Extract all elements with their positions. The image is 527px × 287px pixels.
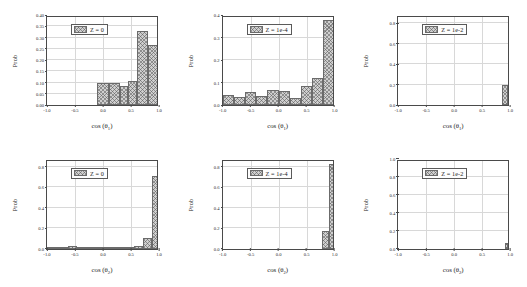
histogram-bar bbox=[329, 164, 333, 248]
legend-swatch-hatched bbox=[250, 26, 263, 33]
y-axis-tick-label: 1.0 bbox=[389, 156, 395, 161]
x-axis-label-main: cos (θ bbox=[267, 122, 283, 129]
y-axis-tick-label: 0.20 bbox=[36, 58, 44, 63]
histogram-bar bbox=[47, 247, 68, 249]
y-axis-tick-label: 0.6 bbox=[214, 185, 220, 190]
x-axis-tick-label: -0.5 bbox=[423, 252, 430, 257]
histogram-bar bbox=[267, 90, 278, 105]
x-axis-tick-label: -1.0 bbox=[219, 108, 226, 113]
plot-area: 0.00.20.40.60.8-1.0-0.50.00.51.0Z = 1e-2 bbox=[397, 16, 509, 106]
legend-box: Z = 0 bbox=[71, 168, 108, 179]
y-axis-tick-label: 0.0 bbox=[214, 103, 220, 108]
y-axis-tick-label: 0.4 bbox=[389, 62, 395, 67]
x-axis-tick-label: 1.0 bbox=[332, 252, 338, 257]
y-axis-label: Prob bbox=[11, 198, 18, 211]
legend-swatch-hatched bbox=[250, 170, 263, 177]
plot-area: 0.00.20.40.60.8-1.0-0.50.00.51.0Z = 0 bbox=[46, 160, 158, 250]
y-axis-tick-label: 0.8 bbox=[389, 174, 395, 179]
y-axis-label: Prob bbox=[362, 55, 369, 68]
chart-panel-2: 0.00.10.20.30.4-1.0-0.50.00.51.0Z = 1e-4… bbox=[176, 0, 352, 144]
legend-box: Z = 1e-4 bbox=[247, 168, 292, 179]
legend-swatch-hatched bbox=[74, 26, 87, 33]
chart-panel-4: 0.00.20.40.60.8-1.0-0.50.00.51.0Z = 0Pro… bbox=[0, 144, 176, 287]
x-axis-tick-label: -1.0 bbox=[43, 108, 50, 113]
histogram-bar bbox=[279, 91, 290, 105]
x-axis-label-close: ) bbox=[286, 122, 288, 129]
x-axis-tick-label: 0.0 bbox=[100, 108, 106, 113]
histogram-bar bbox=[137, 31, 148, 105]
x-axis-tick-label: 0.0 bbox=[451, 252, 457, 257]
histogram-bar bbox=[312, 78, 323, 105]
x-axis-tick-label: 0.5 bbox=[304, 108, 310, 113]
x-axis-label: cos (θ1) bbox=[92, 122, 113, 131]
legend-box: Z = 1e-2 bbox=[422, 24, 467, 35]
figure-panel-grid: 0.000.050.100.150.200.250.300.350.40-1.0… bbox=[0, 0, 527, 287]
y-axis-tick-label: 0.05 bbox=[36, 91, 44, 96]
histogram-bar bbox=[323, 20, 332, 105]
x-axis-tick-label: 0.5 bbox=[304, 252, 310, 257]
histogram-bar bbox=[148, 45, 157, 105]
chart-panel-6: 0.00.20.40.60.81.0-1.0-0.50.00.51.0Z = 1… bbox=[351, 144, 527, 287]
x-axis-label-main: cos (θ bbox=[443, 266, 459, 273]
x-axis-tick-label: 1.0 bbox=[332, 108, 338, 113]
y-axis-label: Prob bbox=[362, 198, 369, 211]
chart-panel-5: 0.00.20.40.60.8-1.0-0.50.00.51.0Z = 1e-4… bbox=[176, 144, 352, 287]
histogram-bar bbox=[77, 247, 97, 249]
y-axis-tick-label: 0.4 bbox=[38, 205, 44, 210]
y-axis-tick-label: 0.2 bbox=[389, 228, 395, 233]
histogram-bar bbox=[120, 86, 128, 105]
x-axis-tick-label: 1.0 bbox=[156, 252, 162, 257]
y-axis-label: Prob bbox=[11, 55, 18, 68]
histogram-bar bbox=[301, 86, 312, 105]
y-axis-tick-label: 0.40 bbox=[36, 13, 44, 18]
legend-box: Z = 1e-2 bbox=[422, 168, 467, 179]
legend-label: Z = 0 bbox=[90, 26, 104, 33]
plot-area: 0.00.20.40.60.81.0-1.0-0.50.00.51.0Z = 1… bbox=[397, 160, 509, 250]
x-axis-tick-label: -0.5 bbox=[423, 108, 430, 113]
x-axis-label-main: cos (θ bbox=[443, 122, 459, 129]
x-axis-tick-label: 1.0 bbox=[156, 108, 162, 113]
y-axis-tick-label: 0.0 bbox=[389, 246, 395, 251]
x-axis-label: cos (θ2) bbox=[443, 266, 464, 275]
chart-panel-1: 0.000.050.100.150.200.250.300.350.40-1.0… bbox=[0, 0, 176, 144]
histogram-bar bbox=[234, 97, 245, 105]
y-axis-tick-label: 0.4 bbox=[214, 205, 220, 210]
y-axis-tick-label: 0.2 bbox=[38, 226, 44, 231]
histogram-bar bbox=[245, 92, 256, 105]
y-axis-tick-label: 0.6 bbox=[38, 185, 44, 190]
x-axis-tick-label: -0.5 bbox=[247, 252, 254, 257]
x-axis-tick-label: 0.5 bbox=[479, 108, 485, 113]
histogram-bar bbox=[120, 247, 134, 249]
y-axis-tick-label: 0.0 bbox=[38, 246, 44, 251]
x-axis-tick-label: 0.5 bbox=[128, 108, 134, 113]
x-axis-label-main: cos (θ bbox=[267, 266, 283, 273]
x-axis-tick-label: 1.0 bbox=[507, 108, 513, 113]
legend-label: Z = 1e-2 bbox=[441, 170, 463, 177]
x-axis-label-main: cos (θ bbox=[92, 122, 108, 129]
y-axis-label: Prob bbox=[186, 55, 193, 68]
y-axis-tick-label: 0.8 bbox=[389, 21, 395, 26]
y-axis-tick-label: 0.1 bbox=[214, 80, 220, 85]
x-axis-tick-label: 0.0 bbox=[100, 252, 106, 257]
legend-label: Z = 1e-4 bbox=[266, 170, 288, 177]
plot-area: 0.00.20.40.60.8-1.0-0.50.00.51.0Z = 1e-4 bbox=[222, 160, 334, 250]
x-axis-label-close: ) bbox=[110, 266, 112, 273]
histogram-bar bbox=[109, 83, 120, 106]
histogram-bar bbox=[256, 96, 267, 105]
x-axis-label-close: ) bbox=[286, 266, 288, 273]
legend-label: Z = 0 bbox=[90, 170, 104, 177]
x-axis-tick-label: -1.0 bbox=[395, 108, 402, 113]
legend-swatch-hatched bbox=[425, 26, 438, 33]
x-axis-label: cos (θ2) bbox=[92, 266, 113, 275]
x-axis-tick-label: 0.0 bbox=[451, 108, 457, 113]
y-axis-tick-label: 0.15 bbox=[36, 69, 44, 74]
legend-label: Z = 1e-2 bbox=[441, 26, 463, 33]
plot-area: 0.000.050.100.150.200.250.300.350.40-1.0… bbox=[46, 16, 158, 106]
y-axis-tick-label: 0.2 bbox=[389, 82, 395, 87]
histogram-bar bbox=[109, 247, 120, 249]
histogram-bar bbox=[97, 83, 108, 106]
x-axis-tick-label: -1.0 bbox=[395, 252, 402, 257]
y-axis-tick-label: 0.0 bbox=[389, 103, 395, 108]
y-axis-tick-label: 0.4 bbox=[389, 210, 395, 215]
histogram-bar bbox=[143, 238, 152, 249]
